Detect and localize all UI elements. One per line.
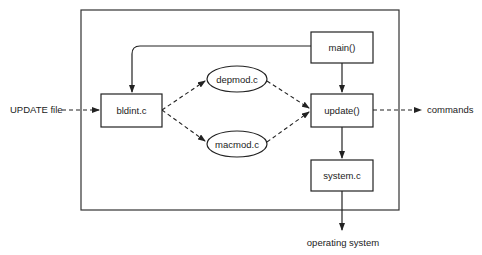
node-bldint: bldint.c	[101, 94, 162, 127]
edge-depmod-to-update	[267, 81, 309, 108]
edge-bldint-to-macmod	[162, 110, 205, 141]
node-system: system.c	[311, 160, 373, 191]
node-depmod: depmod.c	[207, 66, 267, 92]
program-structure-diagram: main() bldint.c depmod.c macmod.c update…	[0, 0, 482, 255]
node-update-label: update()	[324, 105, 359, 116]
edge-bldint-to-depmod	[162, 81, 205, 110]
node-main: main()	[311, 32, 373, 63]
node-macmod: macmod.c	[207, 131, 267, 157]
node-update: update()	[311, 94, 373, 127]
node-depmod-label: depmod.c	[216, 74, 258, 85]
node-bldint-label: bldint.c	[116, 105, 146, 116]
node-main-label: main()	[329, 42, 356, 53]
operating-system-label: operating system	[307, 237, 379, 248]
commands-label: commands	[427, 104, 474, 115]
update-file-label: UPDATE file	[10, 104, 63, 115]
edge-macmod-to-update	[267, 112, 309, 142]
node-system-label: system.c	[323, 170, 361, 181]
node-macmod-label: macmod.c	[215, 139, 259, 150]
